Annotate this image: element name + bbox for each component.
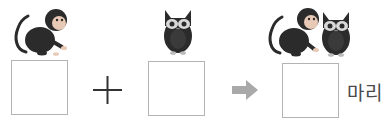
monkey-icon bbox=[12, 4, 68, 56]
unit-label: 마리 bbox=[347, 78, 383, 105]
total-count-box[interactable] bbox=[282, 63, 339, 118]
arrow-right-icon bbox=[232, 80, 258, 100]
result-owl-icon bbox=[320, 8, 352, 58]
plus-icon bbox=[92, 75, 123, 105]
owl-count-box[interactable] bbox=[148, 61, 205, 116]
monkey-count-box[interactable] bbox=[11, 60, 68, 115]
owl-icon bbox=[162, 6, 194, 56]
result-monkey-icon bbox=[266, 5, 322, 57]
